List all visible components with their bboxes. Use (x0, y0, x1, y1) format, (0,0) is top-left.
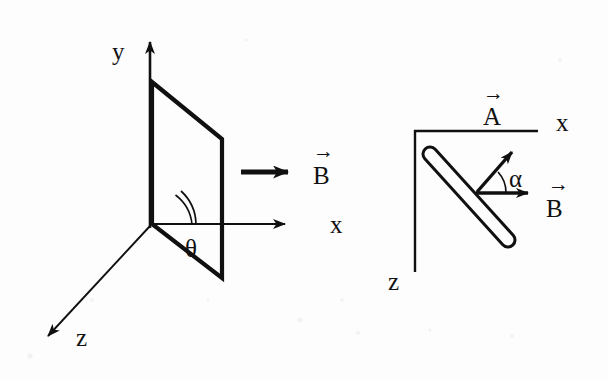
diagram-canvas: y x z θ → B → A (0, 0, 608, 381)
z-axis-label: z (76, 324, 87, 351)
z-axis-label-right: z (388, 268, 399, 295)
b-vector-accent-right: → (548, 172, 569, 196)
rod-interior (430, 154, 508, 240)
alpha-angle-label: α (509, 165, 522, 192)
physics-diagram: y x z θ → B → A (0, 0, 608, 381)
theta-angle-arc (181, 191, 196, 224)
alpha-angle-arc (498, 172, 506, 193)
x-axis-label-right: x (556, 109, 569, 136)
a-vector-label: A (483, 103, 501, 130)
b-vector-accent-left: → (313, 139, 334, 163)
x-axis-label: x (330, 211, 343, 238)
b-vector-label-left: B (313, 162, 330, 189)
theta-angle-label: θ (185, 235, 197, 262)
right-panel: → A x z α → B (388, 81, 569, 295)
z-axis-line (48, 226, 150, 336)
y-axis-label: y (112, 38, 125, 65)
a-vector-accent: → (483, 81, 504, 105)
theta-angle-arc-inner (176, 195, 193, 224)
b-vector-label-right: B (546, 195, 563, 222)
left-panel: y x z θ → B (48, 38, 343, 351)
a-vector-arrow (477, 152, 512, 192)
